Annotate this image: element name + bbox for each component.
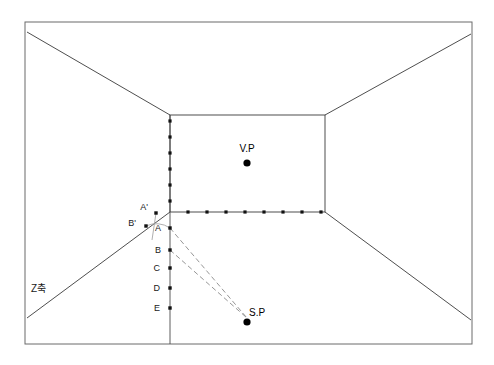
measure-dot-B	[168, 248, 171, 251]
vanishing-point-dot	[243, 159, 250, 166]
ground-dot-4	[243, 210, 246, 213]
sight-rays	[170, 228, 247, 318]
vertical-dot-3	[168, 151, 171, 154]
edge-top-left	[27, 32, 170, 115]
measure-label-D: D	[154, 283, 161, 293]
measure-label-C: C	[154, 263, 161, 273]
ground-dot-1	[186, 210, 189, 213]
station-point-label: S.P	[249, 307, 265, 318]
ground-dot-6	[281, 210, 284, 213]
measure-label-A-prime: A'	[140, 202, 148, 212]
z-axis-label: Z축	[31, 283, 46, 294]
ground-dot-7	[300, 210, 303, 213]
vertical-dot-5	[168, 183, 171, 186]
measure-dot-A	[168, 226, 171, 229]
perspective-diagram: A'B'ABCDE V.P S.P Z축	[0, 0, 494, 365]
measure-label-A: A	[155, 223, 161, 233]
ground-dot-3	[224, 210, 227, 213]
ray-B-to-SP	[170, 250, 247, 318]
measure-label-B: B	[155, 245, 161, 255]
edge-bottom-right	[325, 212, 471, 320]
vertical-dot-4	[168, 167, 171, 170]
measure-dot-A-prime	[154, 211, 157, 214]
measure-dot-B-prime	[144, 224, 147, 227]
ground-dot-5	[262, 210, 265, 213]
vertical-dot-1	[168, 119, 171, 122]
measure-label-E: E	[154, 303, 160, 313]
perspective-drawing-canvas: A'B'ABCDE V.P S.P Z축	[0, 0, 494, 365]
measure-dot-E	[168, 306, 171, 309]
measure-label-B-prime: B'	[128, 218, 136, 228]
ground-dot-2	[205, 210, 208, 213]
edge-top-right	[325, 34, 471, 115]
station-point-dot	[243, 318, 250, 325]
room-edges	[27, 32, 471, 320]
measuring-points: A'B'ABCDE	[128, 202, 171, 313]
edge-bottom-left	[27, 212, 170, 318]
ray-A-to-SP	[170, 228, 247, 318]
ground-dot-8	[319, 210, 322, 213]
vertical-dot-6	[168, 199, 171, 202]
vertical-dot-2	[168, 135, 171, 138]
measure-dot-D	[168, 286, 171, 289]
vanishing-point-label: V.P	[239, 143, 255, 154]
measure-dot-C	[168, 266, 171, 269]
